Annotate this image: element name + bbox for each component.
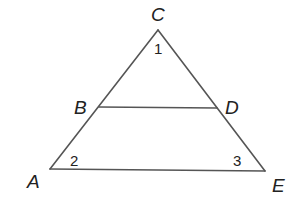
angle-label-1: 1	[154, 40, 162, 57]
point-label-e: E	[272, 175, 285, 196]
point-label-a: A	[26, 171, 40, 192]
segment-ce	[158, 30, 265, 171]
segment-bd	[99, 107, 217, 108]
angle-label-3: 3	[233, 152, 241, 169]
triangle-diagram: C B D A E 1 2 3	[0, 0, 291, 200]
point-label-b: B	[74, 97, 87, 118]
segment-ae	[50, 169, 265, 171]
angle-label-2: 2	[70, 152, 78, 169]
point-label-c: C	[151, 4, 165, 25]
point-label-d: D	[225, 97, 239, 118]
segment-ca	[50, 30, 158, 169]
